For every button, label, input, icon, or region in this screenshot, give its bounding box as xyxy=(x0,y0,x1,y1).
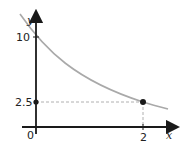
y-axis-label: y xyxy=(26,14,34,27)
y-tick-label-10: 10 xyxy=(16,31,30,44)
x-axis-label: x xyxy=(166,129,173,142)
decay-chart: y x 10 2.5 0 2 xyxy=(0,0,182,151)
point-y-axis xyxy=(33,99,38,104)
x-tick-label-2: 2 xyxy=(140,131,147,144)
y-tick-label-2-5: 2.5 xyxy=(15,96,33,109)
point-curve xyxy=(140,99,146,105)
origin-label: 0 xyxy=(27,129,34,142)
decay-curve xyxy=(20,14,168,109)
